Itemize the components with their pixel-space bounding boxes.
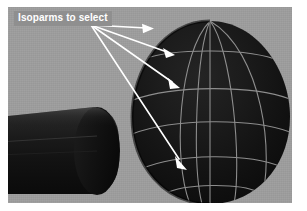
screenshot-root: Isoparms to select [0,0,307,211]
nurbs-egg-surface[interactable] [130,7,292,203]
annotation-label-text: Isoparms to select [18,12,108,23]
nurbs-cylinder-surface[interactable] [8,95,123,200]
cylinder-svg [8,95,123,200]
annotation-label: Isoparms to select [14,11,112,26]
egg-svg [130,7,292,203]
modeling-viewport[interactable]: Isoparms to select [8,7,292,203]
